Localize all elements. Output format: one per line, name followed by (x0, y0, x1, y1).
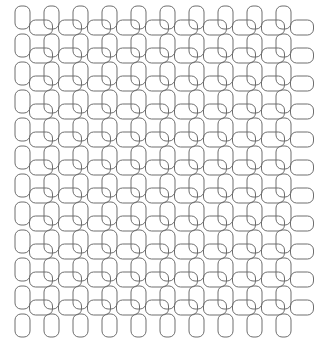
lattice-svg (0, 0, 336, 338)
pattern-canvas (0, 0, 336, 338)
